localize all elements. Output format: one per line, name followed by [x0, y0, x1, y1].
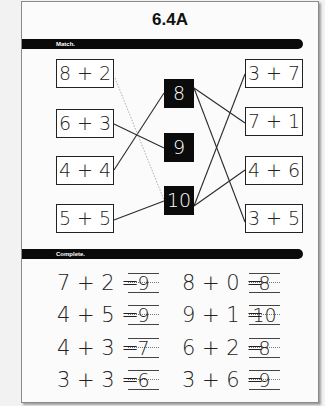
line-5plus5-to-10: [114, 201, 164, 220]
answer-value: 9: [249, 369, 280, 391]
complete-instruction: Complete.: [56, 249, 85, 259]
equation: 7 + 2 =: [57, 272, 139, 294]
match-left-item[interactable]: 6 + 3: [56, 109, 114, 138]
match-right-item[interactable]: 7 + 1: [245, 107, 303, 136]
match-sum-10[interactable]: 10: [164, 186, 194, 215]
match-right-item[interactable]: 3 + 5: [245, 204, 303, 233]
match-left-item[interactable]: 5 + 5: [56, 204, 114, 233]
answer-blank[interactable]: 9: [128, 273, 159, 293]
match-sum-8[interactable]: 8: [164, 79, 194, 108]
answer-blank[interactable]: 9: [249, 370, 280, 390]
answer-value: 9: [128, 272, 159, 294]
equation: 4 + 3 =: [57, 337, 139, 359]
line-8plus2-to-10-dotted: [115, 78, 164, 200]
answer-value: 6: [128, 369, 159, 391]
answer-blank[interactable]: 6: [128, 370, 159, 390]
answer-value: 8: [249, 337, 280, 359]
answer-blank[interactable]: 10: [249, 305, 280, 325]
match-left-item[interactable]: 4 + 4: [56, 156, 114, 185]
answer-blank[interactable]: 9: [128, 305, 159, 325]
answer-blank[interactable]: 7: [128, 338, 159, 358]
equation: 4 + 5 =: [57, 304, 139, 326]
answer-blank[interactable]: 8: [249, 338, 280, 358]
match-right-item[interactable]: 4 + 6: [245, 156, 303, 185]
line-4plus4-to-8: [114, 93, 164, 170]
complete-section-header: Complete.: [22, 249, 303, 259]
answer-value: 9: [128, 304, 159, 326]
worksheet-page: 6.4A Match. 8 + 2 6 + 3 4 + 4 5 + 5 8 9 …: [21, 1, 319, 403]
match-sum-9[interactable]: 9: [164, 133, 194, 162]
answer-value: 10: [249, 304, 280, 326]
answer-value: 7: [128, 337, 159, 359]
line-6plus3-to-9: [114, 124, 164, 148]
match-left-item[interactable]: 8 + 2: [56, 59, 114, 88]
answer-value: 8: [249, 272, 280, 294]
equation: 3 + 3 =: [57, 369, 139, 391]
line-8-to-3plus5: [194, 88, 245, 222]
match-right-item[interactable]: 3 + 7: [245, 59, 303, 88]
answer-blank[interactable]: 8: [249, 273, 280, 293]
